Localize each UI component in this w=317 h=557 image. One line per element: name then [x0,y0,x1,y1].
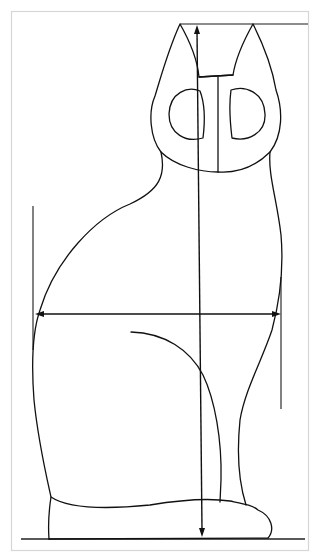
cat-body-left-outline [33,152,163,539]
cat-haunch-curve [131,332,221,502]
cat-tail-base [49,497,272,539]
height-arrow-head-bottom [199,528,205,537]
cat-head-outline [151,24,281,172]
height-arrow-head-top [194,25,200,34]
left-eye [169,89,204,139]
cat-proportion-diagram [0,0,317,557]
cat-body-right-outline [238,152,282,505]
ear-notch-line [199,75,233,77]
right-eye [230,88,265,138]
height-arrow-shaft [197,30,202,530]
page-frame [12,12,309,551]
